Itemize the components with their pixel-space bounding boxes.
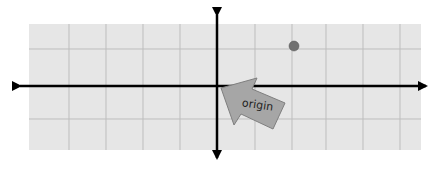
coordinate-plane-diagram: origin (0, 0, 444, 171)
plotted-point (289, 41, 299, 51)
